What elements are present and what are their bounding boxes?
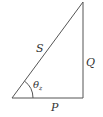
- right-triangle-diagram: S Q P θz: [0, 0, 103, 117]
- angle-label: θz: [33, 79, 43, 91]
- vertical-side-label: Q: [86, 56, 95, 69]
- triangle-sides: [12, 2, 83, 98]
- angle-arc: [25, 81, 34, 98]
- angle-subscript: z: [38, 84, 43, 91]
- hypotenuse-label: S: [36, 42, 44, 55]
- horizontal-side-label: P: [50, 101, 59, 114]
- hypotenuse-line: [12, 2, 83, 98]
